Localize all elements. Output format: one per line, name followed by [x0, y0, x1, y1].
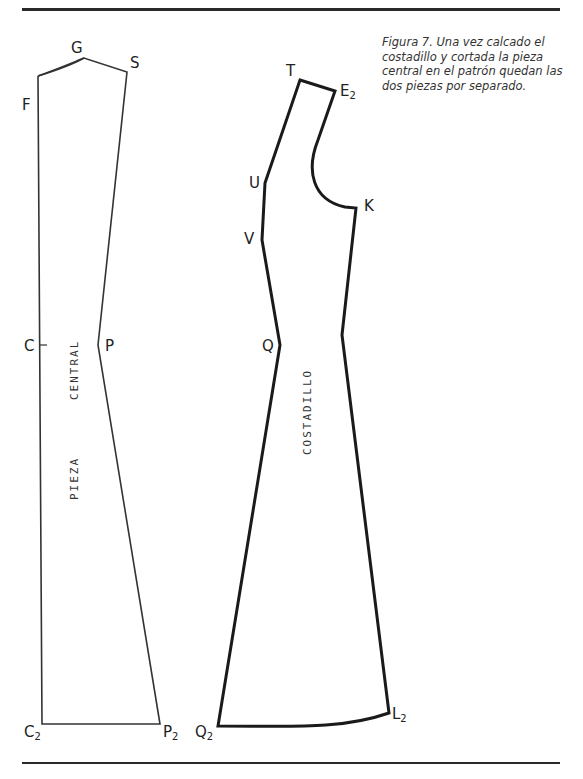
label-P: P — [105, 337, 114, 355]
piece-name-costadillo: COSTADILLO — [301, 369, 314, 455]
costadillo: T E2 U K V Q L2 Q2 COSTADILLO — [195, 62, 407, 742]
label-F: F — [22, 96, 31, 114]
label-Q2: Q2 — [195, 723, 213, 742]
bottom-rule — [22, 762, 560, 764]
pieza-central: G S F C P C2 P2 CENTRAL PIEZA — [22, 39, 178, 742]
piece-name-pieza: PIEZA — [68, 457, 81, 500]
label-C2: C2 — [24, 723, 41, 742]
label-Q: Q — [262, 337, 274, 355]
label-G: G — [71, 39, 83, 57]
label-L2: L2 — [392, 705, 407, 724]
label-S: S — [130, 54, 140, 72]
piece-name-central: CENTRAL — [68, 340, 81, 400]
pieza-central-outline — [38, 58, 160, 724]
label-V: V — [244, 230, 255, 248]
label-P2: P2 — [163, 723, 178, 742]
label-E2: E2 — [340, 82, 356, 101]
pattern-diagram: G S F C P C2 P2 CENTRAL PIEZA T E2 U K V… — [0, 0, 583, 779]
label-U: U — [249, 174, 260, 192]
label-C: C — [24, 337, 34, 355]
label-K: K — [364, 197, 375, 215]
label-T: T — [285, 62, 296, 80]
